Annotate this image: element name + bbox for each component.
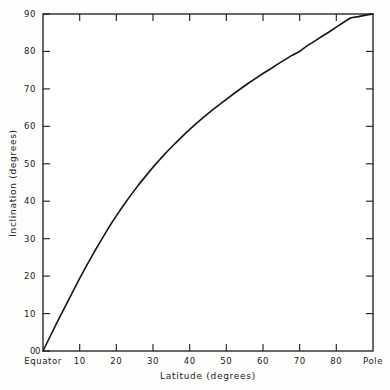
x-tick-label-equator: Equator (24, 356, 62, 366)
x-tick-label-70: 70 (294, 356, 306, 366)
y-tick-label-80: 80 (0, 46, 36, 56)
x-axis-title: Latitude (degrees) (160, 371, 256, 381)
x-tick-label-50: 50 (220, 356, 232, 366)
x-tick-label-60: 60 (257, 356, 269, 366)
x-tick-label-10: 10 (74, 356, 86, 366)
y-tick-label-50: 50 (0, 159, 36, 169)
plot-frame (43, 14, 373, 351)
y-tick-label-10: 10 (0, 309, 36, 319)
x-tick-label-pole: Pole (363, 356, 383, 366)
y-tick-label-90: 90 (0, 9, 36, 19)
x-origin-zero-label: 0 (35, 346, 41, 356)
x-tick-label-40: 40 (184, 356, 196, 366)
plot-canvas (0, 0, 390, 390)
y-tick-label-20: 20 (0, 271, 36, 281)
y-tick-label-0: 0 (0, 346, 36, 356)
y-tick-label-40: 40 (0, 196, 36, 206)
y-tick-label-60: 60 (0, 121, 36, 131)
x-tick-label-80: 80 (330, 356, 342, 366)
chart-figure: 0 10 20 30 40 50 60 70 80 90 0 Equator 1… (0, 0, 390, 390)
y-tick-label-70: 70 (0, 84, 36, 94)
y-axis-title: Inclination (degrees) (8, 129, 18, 237)
y-tick-label-30: 30 (0, 234, 36, 244)
x-tick-label-20: 20 (110, 356, 122, 366)
x-tick-label-30: 30 (147, 356, 159, 366)
